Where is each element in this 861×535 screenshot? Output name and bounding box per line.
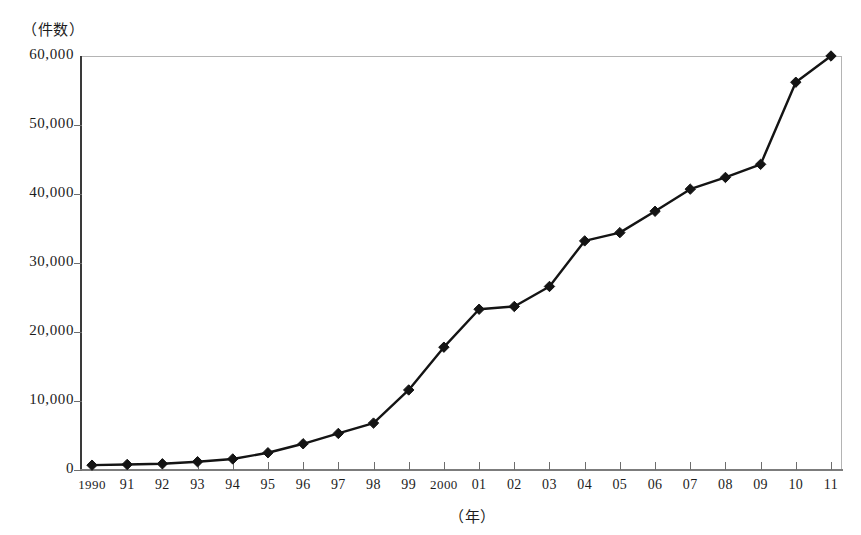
x-axis-tick-label: 93 [190, 477, 205, 493]
x-axis-tick [725, 462, 726, 470]
x-axis-tick-label: 07 [683, 477, 698, 493]
x-axis-tick [549, 462, 550, 470]
x-axis-tick [831, 462, 832, 470]
y-axis-tick [74, 125, 82, 126]
plot-area-frame [80, 56, 842, 470]
y-axis-tick-label: 30,000 [2, 253, 74, 270]
x-axis-tick [127, 462, 128, 470]
x-axis-tick-label: 01 [472, 477, 487, 493]
y-axis-tick-label: 0 [2, 460, 74, 477]
x-axis-tick-label: 91 [120, 477, 135, 493]
y-axis-tick-label: 40,000 [2, 184, 74, 201]
x-axis-tick [655, 462, 656, 470]
x-axis-line [80, 469, 843, 471]
x-axis-tick [514, 462, 515, 470]
y-axis-labels: 010,00020,00030,00040,00050,00060,000 [0, 0, 74, 535]
x-axis-tick-label: 99 [401, 477, 416, 493]
y-axis-tick [74, 194, 82, 195]
x-axis-tick-label: 04 [577, 477, 592, 493]
x-axis-tick-label: 02 [507, 477, 522, 493]
y-axis-tick-label: 50,000 [2, 115, 74, 132]
x-axis-tick-label: 92 [155, 477, 170, 493]
x-axis-tick [303, 462, 304, 470]
x-axis-tick [585, 462, 586, 470]
x-axis-tick-label: 09 [753, 477, 768, 493]
x-axis-tick [268, 462, 269, 470]
chart-page: （件数） （年） 010,00020,00030,00040,00050,000… [0, 0, 861, 535]
y-axis-line [80, 56, 82, 471]
x-axis-tick [162, 462, 163, 470]
x-axis-tick [444, 462, 445, 470]
x-axis-tick [198, 462, 199, 470]
x-axis-tick [338, 462, 339, 470]
x-axis-tick [409, 462, 410, 470]
x-axis-tick-label: 11 [824, 477, 838, 493]
x-axis-tick [620, 462, 621, 470]
y-axis-tick [74, 332, 82, 333]
x-axis-tick-label: 97 [331, 477, 346, 493]
x-axis-tick-label: 96 [296, 477, 311, 493]
x-axis-tick-label: 98 [366, 477, 381, 493]
y-axis-tick-label: 60,000 [2, 46, 74, 63]
x-axis-tick [479, 462, 480, 470]
x-axis-tick [374, 462, 375, 470]
x-axis-tick-label: 95 [261, 477, 276, 493]
y-axis-tick-label: 20,000 [2, 322, 74, 339]
x-axis-tick-label: 08 [718, 477, 733, 493]
y-axis-tick [74, 401, 82, 402]
x-axis-tick-label: 03 [542, 477, 557, 493]
x-axis-tick-label: 10 [788, 477, 803, 493]
x-axis-tick [761, 462, 762, 470]
y-axis-tick-label: 10,000 [2, 391, 74, 408]
x-axis-tick [690, 462, 691, 470]
x-axis-tick [796, 462, 797, 470]
x-axis-tick [92, 462, 93, 470]
x-axis-tick-label: 1990 [78, 477, 106, 493]
y-axis-tick [74, 470, 82, 471]
x-axis-tick-label: 94 [225, 477, 240, 493]
x-axis-tick [233, 462, 234, 470]
y-axis-tick [74, 263, 82, 264]
x-axis-unit-label: （年） [449, 505, 496, 526]
x-axis-tick-label: 06 [648, 477, 663, 493]
x-axis-tick-label: 05 [612, 477, 627, 493]
x-axis-tick-label: 2000 [430, 477, 458, 493]
